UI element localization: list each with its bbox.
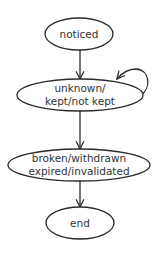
node-status-label-line2: kept/not kept bbox=[45, 95, 115, 107]
node-status-label-line1: unknown/ bbox=[54, 82, 106, 94]
node-terminal-label-line1: broken/withdrawn bbox=[32, 152, 126, 164]
node-end: end bbox=[46, 207, 114, 239]
node-noticed: noticed bbox=[45, 18, 113, 50]
node-noticed-label: noticed bbox=[59, 28, 98, 40]
node-terminal-label-line2: expired/invalidated bbox=[28, 165, 129, 177]
state-diagram: noticed unknown/ kept/not kept broken/wi… bbox=[0, 0, 159, 255]
node-end-label: end bbox=[70, 217, 90, 229]
node-status: unknown/ kept/not kept bbox=[17, 79, 143, 111]
node-terminal: broken/withdrawn expired/invalidated bbox=[8, 149, 150, 181]
